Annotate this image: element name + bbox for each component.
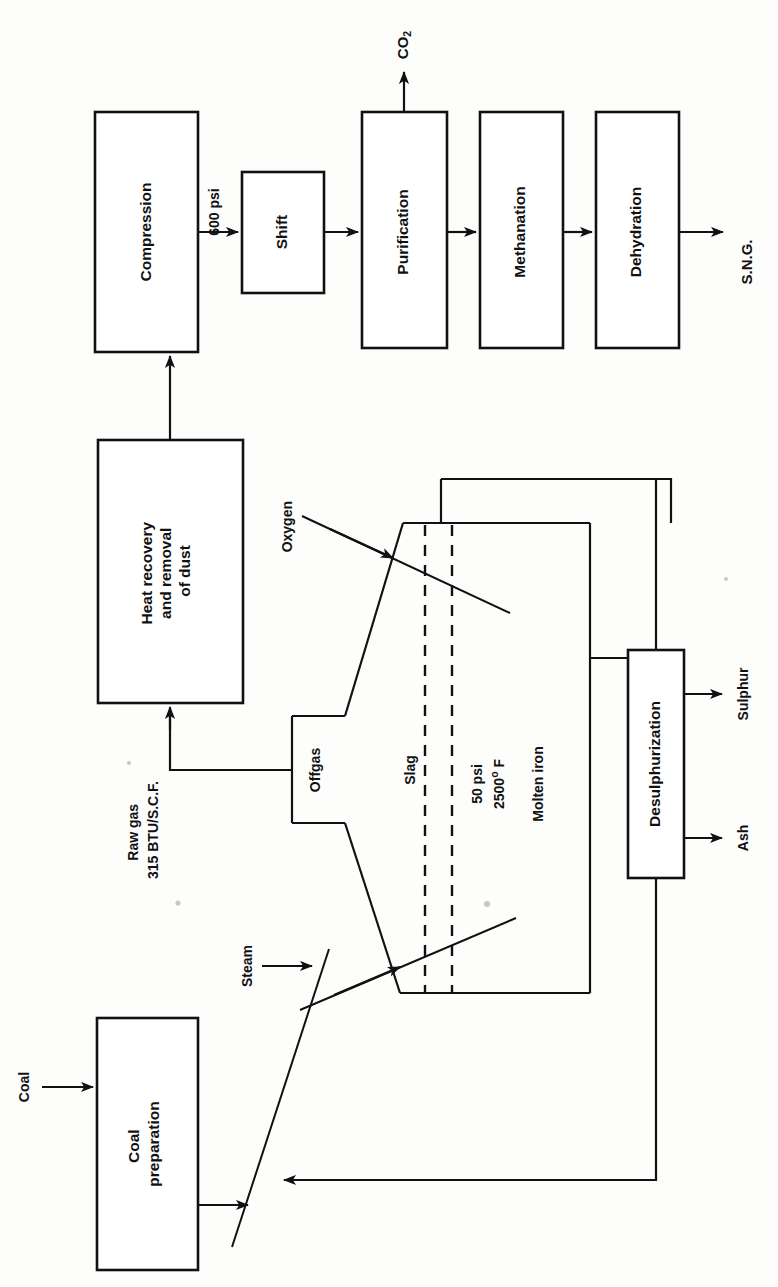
label-sulphur: Sulphur bbox=[735, 667, 751, 720]
process-box-desulphurization-label: Desulphurization bbox=[646, 701, 663, 827]
paper-speck bbox=[127, 761, 131, 765]
lance-line-coal-steam bbox=[300, 918, 516, 1010]
label-coal: Coal bbox=[16, 1072, 32, 1102]
vessel-shoulder-lower bbox=[345, 823, 400, 993]
process-box-purification-label: Purification bbox=[394, 189, 411, 274]
process-box-shift-label: Shift bbox=[273, 215, 290, 249]
label-slag: Slag bbox=[402, 755, 418, 785]
coal-preparation-line-1: Coal bbox=[125, 1129, 142, 1163]
process-flow-diagram: Compression Shift Purification Methanati… bbox=[0, 0, 778, 1287]
annotation-vessel-temperature: 2500o F bbox=[488, 759, 507, 809]
label-sng: S.N.G. bbox=[738, 239, 755, 284]
label-molten-iron: Molten iron bbox=[530, 746, 546, 821]
heat-recovery-line-1: Heat recovery bbox=[138, 522, 155, 625]
diagram-canvas: Compression Shift Purification Methanati… bbox=[0, 0, 778, 1287]
heat-recovery-line-3: of dust bbox=[176, 545, 193, 597]
pipe-desulphurization-return-to-vessel bbox=[441, 479, 671, 523]
label-steam: Steam bbox=[239, 945, 255, 987]
label-co2-base: CO bbox=[394, 36, 411, 59]
annotation-raw-gas-line-2: 315 BTU/S.C.F. bbox=[145, 781, 161, 879]
process-box-methanation-label: Methanation bbox=[511, 186, 528, 277]
pipe-raw-gas-to-heat-recovery bbox=[170, 710, 292, 770]
annotation-temperature-value: 2500 bbox=[491, 778, 507, 809]
paper-speck bbox=[484, 901, 490, 907]
flow-arrow-oxygen-into-vessel bbox=[330, 529, 393, 558]
label-ash: Ash bbox=[735, 825, 751, 851]
pipe-desulphurization-recycle-to-feed bbox=[290, 878, 656, 1180]
label-oxygen: Oxygen bbox=[279, 501, 295, 552]
label-offgas: Offgas bbox=[307, 748, 323, 793]
vessel-shoulder-upper bbox=[345, 523, 403, 716]
coal-preparation-line-2: preparation bbox=[145, 1101, 162, 1186]
heat-recovery-line-2: and removal bbox=[157, 528, 174, 619]
label-co2: CO2 bbox=[394, 31, 413, 60]
paper-speck bbox=[724, 577, 728, 581]
annotation-raw-gas-line-1: Raw gas bbox=[125, 804, 141, 861]
annotation-vessel-pressure: 50 psi bbox=[469, 764, 485, 804]
annotation-600-psi: 600 psi bbox=[206, 188, 222, 235]
flow-arrow-coal-steam-into-vessel bbox=[334, 967, 400, 995]
process-box-compression-label: Compression bbox=[137, 182, 154, 281]
paper-speck bbox=[175, 900, 180, 905]
annotation-raw-gas: Raw gas 315 BTU/S.C.F. bbox=[124, 781, 161, 879]
annotation-temperature-unit: F bbox=[491, 759, 507, 768]
label-co2-subscript: 2 bbox=[401, 31, 413, 37]
process-box-dehydration-label: Dehydration bbox=[627, 187, 644, 277]
feed-riser-line bbox=[232, 949, 329, 1247]
